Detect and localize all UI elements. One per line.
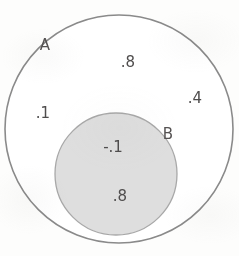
value-label-b-upper: -.1	[103, 140, 123, 155]
diagram-canvas	[0, 0, 239, 256]
value-label-a-right: .4	[188, 91, 202, 106]
euler-diagram-figure: A B .8 .4 .1 -.1 .8	[0, 0, 239, 256]
value-label-a-top: .8	[121, 55, 135, 70]
set-a-label: A	[40, 38, 50, 53]
set-b-circle	[55, 113, 177, 235]
set-b-label: B	[163, 127, 173, 142]
value-label-b-lower: .8	[113, 189, 127, 204]
value-label-a-left: .1	[36, 106, 50, 121]
